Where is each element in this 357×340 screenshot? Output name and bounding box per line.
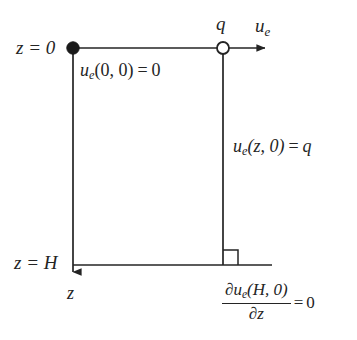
label-ue-axis: ue — [255, 16, 270, 39]
label-flux-q: q — [216, 14, 226, 33]
derivative-fraction: ∂ue(H, 0) ∂z — [222, 281, 291, 323]
drainage-node-open-circle-icon — [217, 42, 229, 54]
diagram-canvas: z = 0 z = H q ue ue(0, 0)=0 ue(z, 0)=q z… — [0, 0, 357, 340]
equation-bottom-boundary: ∂ue(H, 0) ∂z = 0 — [222, 281, 315, 323]
eq-right-args-text: (z, 0) — [247, 136, 284, 156]
eq-top-rel: = — [137, 60, 147, 80]
eq-top-rhs: 0 — [152, 60, 161, 80]
eq-right-args: (z, 0) — [247, 136, 284, 156]
derivative-numerator: ∂ue(H, 0) — [222, 281, 291, 303]
eq-top-args: (0, 0) — [94, 60, 133, 80]
derivative-rhs: 0 — [306, 294, 315, 311]
label-ue-axis-base: u — [255, 15, 265, 36]
derivative-denominator: ∂z — [222, 303, 291, 323]
eq-top-fn: u — [80, 60, 89, 80]
label-z-top: z = 0 — [16, 38, 55, 57]
label-ue-axis-subscript: e — [265, 24, 271, 39]
origin-node-filled-circle-icon — [67, 42, 79, 54]
label-z-axis: z — [67, 284, 74, 302]
right-angle-square-icon — [223, 250, 238, 265]
num-args-text: (H, 0) — [247, 280, 288, 299]
eq-right-rhs: q — [303, 136, 312, 156]
den-var: z — [257, 304, 264, 323]
equation-top-boundary: ue(0, 0)=0 — [80, 61, 161, 82]
eq-right-fn: u — [233, 136, 242, 156]
eq-right-rel: = — [288, 136, 298, 156]
label-z-bottom-text: z = H — [14, 252, 57, 273]
equation-right-side: ue(z, 0)=q — [233, 137, 312, 158]
label-z-bottom: z = H — [14, 253, 57, 272]
den-partial: ∂ — [249, 304, 257, 323]
num-args: (H, 0) — [247, 280, 288, 299]
num-fn: u — [233, 280, 242, 299]
derivative-rel: = — [294, 294, 304, 311]
